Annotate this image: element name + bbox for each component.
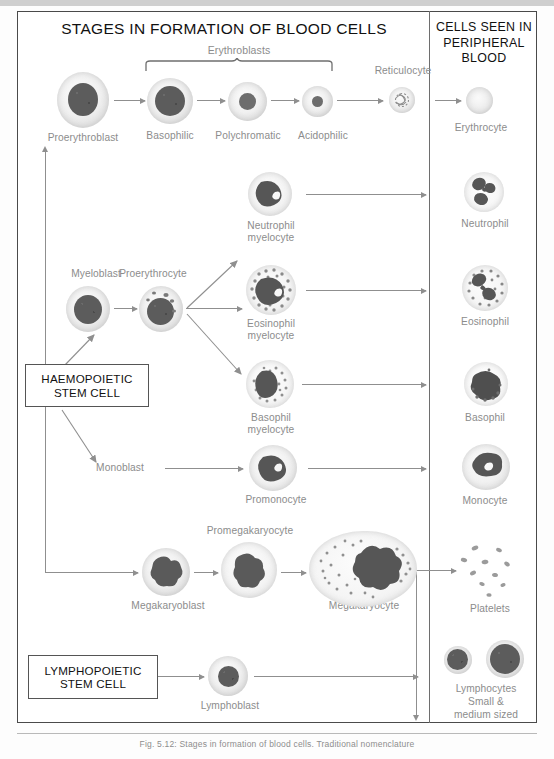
cell-lymphoblast [208, 656, 248, 696]
cell-neutrophil-myelocyte [248, 172, 292, 216]
label-monocyte: Monocyte [438, 495, 532, 507]
label-polychromatic: Polychromatic [208, 130, 288, 142]
arrow-basophil-myelocyte-to-basophil [302, 384, 426, 385]
nucleus [464, 172, 504, 212]
reticulum-icon [389, 87, 415, 113]
label-basophil: Basophil [438, 412, 532, 424]
cell-promegakaryocyte [221, 542, 277, 598]
cell-lymphocyte-small [444, 646, 472, 674]
label-promegakaryocyte: Promegakaryocyte [186, 525, 314, 537]
arrow-proerythrocyte-to-basophil-myelocyte [185, 312, 251, 380]
cell-promonocyte [249, 445, 297, 491]
nucleus [464, 362, 508, 406]
nucleus [312, 96, 323, 107]
cell-monocyte [462, 444, 510, 490]
cell-basophil [464, 362, 508, 406]
label-acidophilic: Acidophilic [288, 130, 358, 142]
nucleus [248, 172, 292, 216]
arrow-proerythrocyte-to-eosinophil-myelocyte [186, 308, 242, 309]
label-lymphoblast: Lymphoblast [188, 700, 272, 712]
nucleus [239, 93, 256, 110]
cell-polychromatic-erythroblast [228, 82, 267, 121]
label-proerythroblast: Proerythroblast [23, 132, 143, 144]
cell-basophil-myelocyte [246, 360, 294, 408]
label-eosinophil: Eosinophil [438, 316, 532, 328]
cell-myeloblast [66, 286, 110, 332]
arrow-proerythroblast-to-basophilic [114, 100, 145, 101]
arrow-acidophilic-to-reticulocyte [337, 100, 383, 101]
cell-neutrophil [464, 172, 504, 212]
granules [139, 286, 183, 332]
figure-caption: Fig. 5.12: Stages in formation of blood … [17, 739, 537, 757]
caption-divider [17, 733, 537, 734]
arrow-spine-to-megakaryoblast [110, 572, 138, 573]
label-lymphocytes: Lymphocytes Small & medium sized [436, 682, 536, 721]
cell-platelets [455, 540, 523, 602]
nucleus [74, 295, 102, 324]
column-divider [429, 11, 430, 723]
cytoplasm [466, 87, 493, 114]
label-megakaryoblast: Megakaryoblast [118, 600, 218, 612]
arrow-eosinophil-myelocyte-to-eosinophil [306, 290, 426, 291]
nucleus [155, 86, 185, 116]
spine-up-to-proerythroblast [45, 152, 46, 572]
label-platelets: Platelets [440, 603, 540, 615]
arrow-proerythrocyte-to-neutrophil-myelocyte [185, 256, 247, 312]
spine-bottom-horizontal [45, 572, 120, 573]
arrow-neutrophil-myelocyte-to-neutrophil [306, 194, 426, 195]
nucleus [462, 444, 510, 490]
arrow-reticulocyte-to-erythrocyte [435, 100, 461, 101]
nucleus [447, 649, 468, 670]
cell-proerythroblast [57, 72, 109, 128]
cell-acidophilic-erythroblast [302, 86, 333, 117]
arrow-stemcell-to-myeloblast [60, 330, 105, 368]
arrow-myeloblast-to-proerythrocyte [114, 308, 137, 309]
nucleus [462, 265, 508, 311]
nucleus [142, 548, 190, 596]
label-reticulocyte: Reticulocyte [360, 65, 446, 77]
nucleus [246, 265, 296, 315]
cell-basophilic-erythroblast [147, 78, 193, 124]
right-column-title: CELLS SEEN IN PERIPHERAL BLOOD [432, 20, 536, 67]
bracket-erythroblasts [144, 58, 334, 72]
cell-erythrocyte [466, 87, 493, 114]
cell-megakaryocyte [309, 531, 417, 607]
arrow-monoblast-to-promonocyte [165, 468, 243, 469]
cell-reticulocyte [389, 87, 415, 113]
nucleus [490, 644, 520, 674]
nucleus [68, 83, 98, 116]
arrow-promonocyte-to-monocyte [308, 468, 426, 469]
top-band [0, 0, 554, 6]
arrow-promegakaryocyte-to-megakaryocyte [281, 572, 306, 573]
label-erythroblasts: Erythroblasts [179, 44, 299, 56]
cell-eosinophil-myelocyte [246, 265, 296, 315]
nucleus [246, 360, 294, 408]
cell-proerythrocyte [139, 286, 183, 332]
label-erythrocyte: Erythrocyte [436, 122, 526, 134]
arrow-stemcell-to-monoblast [58, 408, 110, 470]
nucleus [249, 445, 297, 491]
arrow-megakaryoblast-to-promegakaryocyte [194, 572, 218, 573]
arrow-basophilic-to-polychromatic [197, 100, 225, 101]
label-basophil-myelocyte: Basophil myelocyte [232, 412, 310, 436]
arrow-polychromatic-to-acidophilic [271, 100, 299, 101]
nucleus [309, 531, 417, 607]
nucleus [218, 666, 239, 687]
page-title: STAGES IN FORMATION OF BLOOD CELLS [25, 20, 423, 38]
label-basophilic: Basophilic [130, 130, 210, 142]
label-neutrophil: Neutrophil [438, 218, 532, 230]
nucleus [221, 542, 277, 598]
arrow-lymphoblast-to-lymphocytes [254, 676, 418, 677]
cell-lymphocyte-medium [486, 640, 524, 678]
cell-megakaryoblast [142, 548, 190, 596]
cell-eosinophil [462, 265, 508, 311]
arrow-lymphopoietic-to-lymphoblast [157, 676, 204, 677]
label-neutrophil-myelocyte: Neutrophil myelocyte [232, 220, 310, 244]
lymphopoietic-stem-cell-box: LYMPHOPOIETIC STEM CELL [28, 655, 158, 699]
label-promonocyte: Promonocyte [233, 494, 319, 506]
haemopoietic-stem-cell-box: HAEMOPOIETIC STEM CELL [25, 364, 149, 407]
